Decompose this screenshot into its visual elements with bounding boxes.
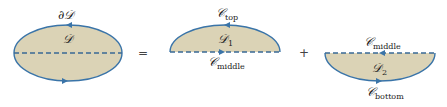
region-decomposition-diagram: ∂𝒟 𝒟 = 𝒞top 𝒟1 𝒞middle + 𝒞middle 𝒟2 𝒞bot…	[0, 0, 447, 107]
curve-middle-label: 𝒞middle	[364, 35, 401, 51]
full-region: ∂𝒟 𝒟	[14, 8, 122, 84]
top-region: 𝒞top 𝒟1 𝒞middle	[170, 6, 280, 71]
bottom-region: 𝒞middle 𝒟2 𝒞bottom	[325, 35, 435, 101]
equals-sign: =	[138, 46, 148, 60]
curve-bottom-label: 𝒞bottom	[366, 85, 404, 101]
curve-middle-label: 𝒞middle	[208, 55, 245, 71]
boundary-label: ∂𝒟	[58, 8, 76, 22]
curve-top-label: 𝒞top	[216, 6, 238, 22]
plus-sign: +	[299, 46, 309, 60]
